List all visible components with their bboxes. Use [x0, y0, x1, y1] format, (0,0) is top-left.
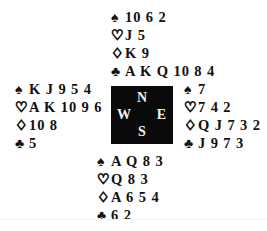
hand-north-spade-line: ♠ 10 6 2 — [111, 8, 215, 26]
hand-south-spades: A Q 8 3 — [110, 152, 164, 170]
hand-west-hearts: A K 10 9 6 — [28, 98, 102, 116]
hand-west-clubs: 5 — [28, 134, 37, 152]
hand-east-clubs: J 9 7 3 — [197, 134, 244, 152]
hand-east-hearts: 7 4 2 — [197, 98, 232, 116]
diamond-icon: ♢ — [111, 45, 124, 63]
hand-north-spades: 10 6 2 — [124, 8, 167, 26]
heart-icon: ♡ — [184, 99, 197, 117]
hand-west-diamonds: 10 8 — [28, 116, 58, 134]
spade-icon: ♠ — [184, 81, 197, 99]
hand-south-heart-line: ♡ Q 8 3 — [97, 170, 164, 188]
hand-east-diamonds: Q J 7 3 2 — [197, 116, 261, 134]
scan-artifact-line — [0, 219, 267, 220]
hand-north-heart-line: ♡ J 5 — [111, 26, 215, 44]
hand-west-spades: K J 9 5 4 — [28, 80, 92, 98]
hand-east-spades: 7 — [197, 80, 206, 98]
hand-north-diamond-line: ♢ K 9 — [111, 44, 215, 62]
club-icon: ♣ — [97, 207, 110, 225]
compass-north-label: N — [137, 91, 147, 105]
hand-east-spade-line: ♠ 7 — [184, 80, 261, 98]
hand-south-diamond-line: ♢ A 6 5 4 — [97, 188, 164, 206]
hand-west-heart-line: ♡ A K 10 9 6 — [15, 98, 102, 116]
hand-west-spade-line: ♠ K J 9 5 4 — [15, 80, 102, 98]
hand-south-club-line: ♣ 6 2 — [97, 206, 164, 224]
compass-west-label: W — [117, 108, 131, 122]
hand-south-hearts: Q 8 3 — [110, 170, 149, 188]
diamond-icon: ♢ — [184, 117, 197, 135]
hand-east: ♠ 7 ♡ 7 4 2 ♢ Q J 7 3 2 ♣ J 9 7 3 — [184, 80, 261, 152]
heart-icon: ♡ — [97, 171, 110, 189]
diamond-icon: ♢ — [97, 189, 110, 207]
hand-west-club-line: ♣ 5 — [15, 134, 102, 152]
hand-west: ♠ K J 9 5 4 ♡ A K 10 9 6 ♢ 10 8 ♣ 5 — [15, 80, 102, 152]
hand-east-heart-line: ♡ 7 4 2 — [184, 98, 261, 116]
club-icon: ♣ — [15, 135, 28, 153]
spade-icon: ♠ — [15, 81, 28, 99]
compass-box: N W E S — [111, 86, 173, 144]
spade-icon: ♠ — [97, 153, 110, 171]
heart-icon: ♡ — [15, 99, 28, 117]
spade-icon: ♠ — [111, 9, 124, 27]
hand-east-club-line: ♣ J 9 7 3 — [184, 134, 261, 152]
club-icon: ♣ — [111, 63, 124, 81]
compass-south-label: S — [138, 125, 146, 139]
hand-south-clubs: 6 2 — [110, 206, 132, 224]
hand-south-spade-line: ♠ A Q 8 3 — [97, 152, 164, 170]
compass-east-label: E — [157, 108, 166, 122]
hand-north-diamonds: K 9 — [124, 44, 150, 62]
diamond-icon: ♢ — [15, 117, 28, 135]
hand-south: ♠ A Q 8 3 ♡ Q 8 3 ♢ A 6 5 4 ♣ 6 2 — [97, 152, 164, 224]
hand-north-hearts: J 5 — [124, 26, 146, 44]
hand-east-diamond-line: ♢ Q J 7 3 2 — [184, 116, 261, 134]
heart-icon: ♡ — [111, 27, 124, 45]
hand-north: ♠ 10 6 2 ♡ J 5 ♢ K 9 ♣ A K Q 10 8 4 — [111, 8, 215, 80]
hand-west-diamond-line: ♢ 10 8 — [15, 116, 102, 134]
hand-south-diamonds: A 6 5 4 — [110, 188, 160, 206]
bridge-deal-diagram: ♠ 10 6 2 ♡ J 5 ♢ K 9 ♣ A K Q 10 8 4 ♠ K … — [0, 0, 267, 231]
club-icon: ♣ — [184, 135, 197, 153]
hand-north-club-line: ♣ A K Q 10 8 4 — [111, 62, 215, 80]
hand-north-clubs: A K Q 10 8 4 — [124, 62, 215, 80]
